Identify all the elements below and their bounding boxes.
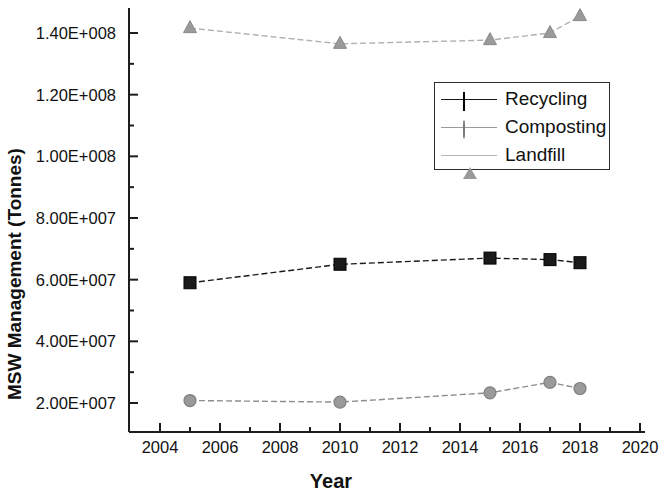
legend-item-recycling: Recycling (441, 85, 587, 113)
x-tick-label: 2014 (442, 438, 479, 457)
x-tick-label: 2006 (202, 438, 239, 457)
square-marker-icon (463, 93, 465, 111)
legend-label-composting: Composting (505, 116, 606, 138)
axis-lines (129, 8, 645, 432)
x-tick-label: 2020 (622, 438, 659, 457)
legend-item-composting: Composting (441, 113, 606, 141)
x-tick-label: 2012 (382, 438, 419, 457)
circle-marker-icon (463, 121, 465, 139)
plot-area (0, 0, 662, 503)
x-tick-label: 2008 (262, 438, 299, 457)
triangle-marker-icon (463, 150, 477, 168)
legend-swatch-composting (441, 117, 497, 137)
legend-item-landfill: Landfill (441, 141, 565, 169)
legend-label-recycling: Recycling (505, 88, 587, 110)
x-tick-label: 2010 (322, 438, 359, 457)
chart-figure: 2.00E+0074.00E+0076.00E+0078.00E+0071.00… (0, 0, 662, 503)
legend-line-recycling (441, 99, 497, 100)
y-axis-title: MSW Management (Tonnes) (4, 148, 26, 400)
legend-line-composting (441, 127, 497, 128)
x-axis-title: Year (0, 470, 662, 493)
x-tick-label: 2004 (142, 438, 179, 457)
chart-legend: Recycling Composting Landfill (434, 82, 610, 170)
legend-swatch-recycling (441, 89, 497, 109)
y-tick-label: 1.40E+008 (8, 24, 116, 43)
x-tick-label: 2018 (562, 438, 599, 457)
legend-label-landfill: Landfill (505, 144, 565, 166)
y-tick-label: 1.20E+008 (8, 85, 116, 104)
x-tick-label: 2016 (502, 438, 539, 457)
legend-swatch-landfill (441, 145, 497, 165)
data-series-layer (184, 9, 587, 408)
